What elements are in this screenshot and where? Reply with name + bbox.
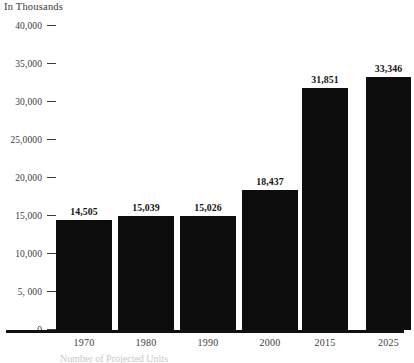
- bar-chart: In Thousands 40,00035,00030,00025,000020…: [0, 0, 414, 363]
- y-axis-tick-label: 15,000: [15, 211, 42, 221]
- bar-value-label: 18,437: [256, 176, 284, 187]
- bar: [242, 190, 298, 330]
- y-axis-tick-label: 25,0000: [10, 135, 42, 145]
- x-axis-label: 1980: [118, 337, 174, 348]
- bar-group: 15,039: [118, 216, 174, 330]
- x-axis-label: 2000: [242, 337, 298, 348]
- bar-value-label: 14,505: [70, 206, 98, 217]
- bar-value-label: 15,039: [132, 202, 160, 213]
- y-axis-tick-label: 5, 000: [18, 287, 42, 297]
- x-axis-label: 1990: [180, 337, 236, 348]
- x-axis-label: 2015: [302, 337, 348, 348]
- y-axis-tick-label: 40,000: [15, 21, 42, 31]
- bar-value-label: 33,346: [375, 63, 403, 74]
- bar-group: 33,346: [366, 77, 411, 330]
- bar-value-label: 31,851: [311, 74, 339, 85]
- bar-group: 15,026: [180, 216, 236, 330]
- chart-caption: Number of Projected Units: [60, 353, 390, 363]
- y-axis-tick-label: 30,000: [15, 97, 42, 107]
- bar-group: 18,437: [242, 190, 298, 330]
- y-axis-tick-label: 10,000: [15, 249, 42, 259]
- bar-group: 14,505: [56, 220, 112, 330]
- unit-label: In Thousands: [4, 1, 63, 12]
- bar: [302, 88, 348, 330]
- bar: [118, 216, 174, 330]
- bar-group: 31,851: [302, 88, 348, 330]
- y-axis-tick-label: 35,000: [15, 59, 42, 69]
- y-axis-tick-label: 20,000: [15, 173, 42, 183]
- bar: [180, 216, 236, 330]
- x-axis-label: 2025: [366, 337, 411, 348]
- bar: [366, 77, 411, 330]
- bar-value-label: 15,026: [194, 202, 222, 213]
- bar: [56, 220, 112, 330]
- x-axis-label: 1970: [56, 337, 112, 348]
- x-axis-line: [6, 330, 404, 333]
